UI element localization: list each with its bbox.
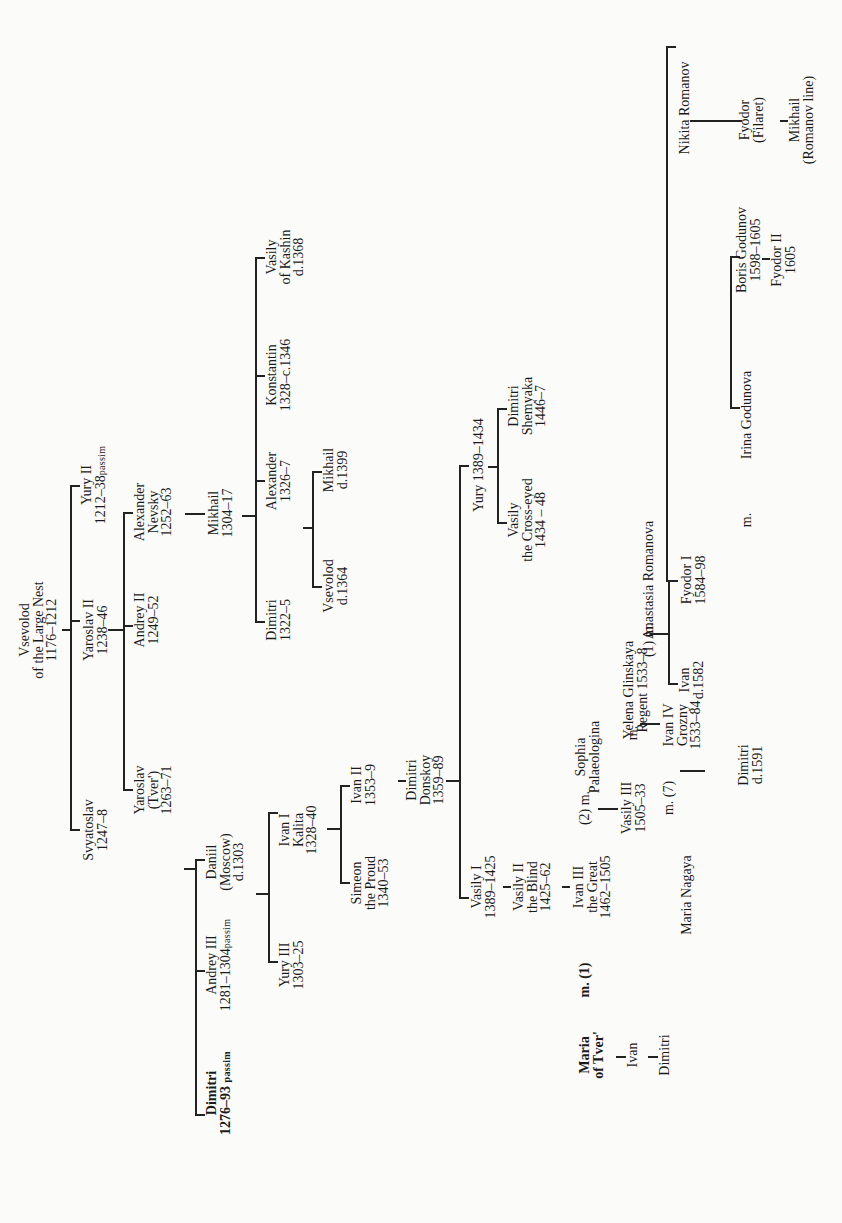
connector xyxy=(690,120,742,122)
connector-yaroslav2-children xyxy=(123,512,125,790)
connector xyxy=(108,629,124,631)
connector xyxy=(256,893,269,895)
node-ivan1: Ivan I Kalita 1328–40 xyxy=(278,780,319,880)
connector xyxy=(459,897,469,899)
node-dimitri-shemyaka: Dimitri Shemyaka 1446–7 xyxy=(507,356,548,456)
node-mikhail-1399: Mikhail d.1399 xyxy=(322,420,349,520)
node-dimitri-1591: Dimitri d.1591 xyxy=(737,715,764,815)
node-anastasia: Anastasia Romanova xyxy=(642,500,656,660)
node-simeon: Simeon the Proud 1340–53 xyxy=(350,833,391,933)
node-vasily2: Vasily II the Blind 1425–62 xyxy=(512,837,553,937)
node-vsevolod-1364: Vsevolod d.1364 xyxy=(322,536,349,636)
node-dimitri-1322: Dimitri 1322–5 xyxy=(265,570,292,670)
node-maria-nagaya: Maria Nagaya xyxy=(680,830,694,960)
node-yury2: Yury II 1212–38passim xyxy=(80,415,108,555)
connector-alexander-children xyxy=(312,471,314,587)
node-vasily1: Vasily I 1389–1425 xyxy=(470,837,497,937)
node-maria-tver: Maria of Tver' xyxy=(578,1010,605,1100)
node-vsevolod: Vsevolod of the Large Nest 1176–1212 xyxy=(18,555,59,705)
node-daniil: Daniil (Moscow) d.1303 xyxy=(205,812,246,912)
connector xyxy=(62,629,72,631)
node-dimitri-tver: Dimitri xyxy=(658,1020,672,1090)
node-vasily3: Vasily III 1505–33 xyxy=(620,758,647,858)
connector-nevsky-children xyxy=(195,859,197,1115)
node-fyodor-filaret: Fyodor (Filaret) xyxy=(738,70,765,170)
connector-donskoy-children xyxy=(459,465,461,898)
node-andrey2: Andrey II 1249–52 xyxy=(133,570,160,670)
connector xyxy=(503,886,511,888)
node-ivan2: Ivan II 1353–9 xyxy=(350,735,377,835)
connector xyxy=(185,513,205,515)
node-yaroslav2: Yaroslav II 1238–46 xyxy=(82,575,109,685)
connector xyxy=(666,580,676,582)
node-sophia: Sophia Palaeologina xyxy=(574,702,601,812)
connector-mikhail-children xyxy=(255,257,257,622)
node-konstantin: Konstantin 1328–c.1346 xyxy=(265,320,292,430)
node-ivan-1582: Ivan d.1582 xyxy=(678,630,705,730)
connector xyxy=(666,46,676,48)
connector xyxy=(488,466,498,468)
connector xyxy=(184,868,196,870)
node-mikhail-romanov: Mikhail (Romanov line) xyxy=(788,60,815,180)
node-dimitri-1276: Dimitri 1276–93 passim xyxy=(205,1028,233,1158)
node-ivan-tver: Ivan xyxy=(626,1030,640,1080)
connector-ivan1-children xyxy=(340,785,342,883)
node-mikhail-1304: Mikhail 1304–17 xyxy=(207,463,234,563)
connector xyxy=(562,886,570,888)
node-yury-1389: Yury 1389–1434 xyxy=(472,400,486,530)
marriage-fyodor1: m. xyxy=(740,505,754,535)
node-andrey3: Andrey III 1281–1304passim xyxy=(205,890,233,1040)
connector-vsevolod-children xyxy=(70,485,72,831)
connector-romanov-trunk xyxy=(666,46,668,581)
node-ivan3: Ivan III the Great 1462–1505 xyxy=(572,837,613,937)
node-nikita: Nikita Romanov xyxy=(678,38,692,178)
connector-godunov xyxy=(730,256,732,408)
node-dimitri-donskoy: Dimitri Donskoy 1359–89 xyxy=(405,730,446,830)
node-irina: Irina Godunova xyxy=(740,345,754,485)
connector xyxy=(242,515,256,517)
node-svyatoslav: Svyatoslav 1247–8 xyxy=(82,780,109,880)
connector-daniil-children xyxy=(268,812,270,962)
node-vasily-kashin: Vasily of Kashin d.1368 xyxy=(265,207,306,307)
node-alexander-1326: Alexander 1326–7 xyxy=(265,431,292,531)
marriage-ivan4-7: m. (7) xyxy=(662,768,676,828)
family-tree-canvas: Vsevolod of the Large Nest 1176–1212 Yur… xyxy=(0,0,842,1223)
node-yury3: Yury III 1303–25 xyxy=(278,915,305,1015)
connector xyxy=(598,808,618,810)
node-yaroslav-tver: Yaroslav (Tver') 1263–71 xyxy=(133,740,174,840)
connector xyxy=(327,828,341,830)
connector xyxy=(70,829,80,831)
marriage-ivan3-1: m. (1) xyxy=(578,950,592,1010)
node-fyodor1: Fyodor I 1584–98 xyxy=(680,530,707,630)
node-alexander-nevsky: Alexander Nevsky 1252–63 xyxy=(133,456,174,568)
node-vasily-crosseyed: Vasily the Cross-eyed 1434 – 48 xyxy=(507,460,548,580)
node-boris: Boris Godunov 1598–1605 xyxy=(735,180,762,320)
connector xyxy=(303,527,313,529)
connector xyxy=(70,620,80,622)
node-fyodor2: Fyodor II 1605 xyxy=(770,210,797,310)
connector xyxy=(446,780,460,782)
connector-ivan4-children xyxy=(668,580,670,684)
connector xyxy=(459,465,469,467)
